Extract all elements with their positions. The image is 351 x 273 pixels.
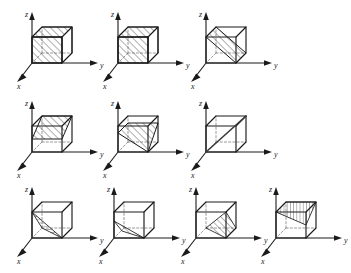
cube-svg-10: z y x <box>258 181 351 269</box>
direction-vector-6 <box>206 116 246 152</box>
axis-label-x-3: x <box>190 82 195 91</box>
axes-group-6: z y x <box>190 99 278 180</box>
axes-group-10: z y x <box>260 185 348 266</box>
axis-label-x-4: x <box>16 171 21 180</box>
cube-cell-6: z y x <box>188 95 292 181</box>
triangular-plane-8 <box>114 221 144 238</box>
cube-cell-3: z y x <box>188 6 292 92</box>
cube-top-face-1 <box>32 27 72 37</box>
axis-label-z-9: z <box>188 185 193 194</box>
axis-label-x-10: x <box>260 257 265 266</box>
cube-cell-10: z y x <box>258 181 351 269</box>
cube-svg-3: z y x <box>188 6 292 92</box>
crystallographic-planes-figure: z y x z y x <box>0 0 351 273</box>
axis-label-x-6: x <box>190 171 195 180</box>
axis-label-y-3: y <box>273 61 278 70</box>
axes-group-8: z y x <box>98 185 186 266</box>
cube-front-face-1 <box>32 37 62 63</box>
triangular-plane-9 <box>206 212 236 238</box>
axis-label-x-8: x <box>98 257 103 266</box>
triangular-plane-7 <box>32 212 62 238</box>
axis-label-z-3: z <box>198 10 203 19</box>
axis-label-z-8: z <box>106 185 111 194</box>
axis-label-x-2: x <box>102 82 107 91</box>
cube-svg-6: z y x <box>188 95 292 181</box>
axis-label-y-6: y <box>273 150 278 159</box>
axis-label-x-7: x <box>16 257 21 266</box>
cube-front-face-2 <box>118 37 148 63</box>
axis-label-z-7: z <box>24 185 29 194</box>
axis-label-z-2: z <box>110 10 115 19</box>
axis-label-y-10: y <box>343 236 348 245</box>
axis-label-x-5: x <box>102 171 107 180</box>
axis-label-x-9: x <box>180 257 185 266</box>
axis-label-z-5: z <box>110 99 115 108</box>
axis-label-x-1: x <box>16 82 21 91</box>
axis-label-z-1: z <box>24 10 29 19</box>
axis-label-z-6: z <box>198 99 203 108</box>
axis-label-z-4: z <box>24 99 29 108</box>
axis-label-z-10: z <box>268 185 273 194</box>
axes-group-7: z y x <box>16 185 104 266</box>
cube-top-face-2 <box>118 27 158 37</box>
